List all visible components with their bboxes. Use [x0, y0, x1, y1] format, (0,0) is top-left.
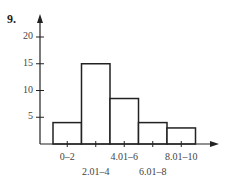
x-tick-label: 0–2 [60, 151, 75, 162]
y-tick-label: 10 [13, 84, 33, 95]
x-tick-label: 2.01–4 [82, 166, 110, 177]
y-tick-label: 5 [13, 110, 33, 121]
histogram-bar [82, 64, 111, 144]
y-axis-arrow-icon [37, 14, 43, 23]
y-tick-label: 20 [13, 30, 33, 41]
x-axis-arrow-icon [210, 141, 219, 147]
bars [53, 64, 196, 144]
histogram-bar [139, 123, 168, 144]
x-tick-label: 8.01–10 [165, 151, 198, 162]
y-tick-label: 15 [13, 57, 33, 68]
histogram-bar [110, 99, 139, 144]
histogram-bar [53, 123, 82, 144]
histogram-plot [0, 0, 233, 193]
x-tick-label: 4.01–6 [111, 151, 139, 162]
x-tick-label: 6.01–8 [139, 166, 167, 177]
